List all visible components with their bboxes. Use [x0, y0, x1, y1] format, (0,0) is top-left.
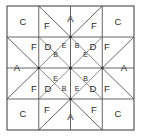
patch-label-center-bl-e: E	[53, 75, 58, 82]
left-junction-dot	[37, 67, 40, 70]
patch-label-left-upper-f: F	[31, 41, 37, 52]
patch-label-center-tl-e: E	[62, 42, 67, 49]
patch-label-right-center-a: A	[121, 62, 128, 73]
patch-label-corner-top-left: C	[20, 16, 27, 27]
patch-label-bottom-right-f: F	[91, 104, 97, 115]
patch-label-top-right-f: F	[91, 20, 97, 31]
patch-label-right-lower-d: D	[90, 83, 97, 94]
patch-label-left-lower-d: D	[45, 83, 52, 94]
patch-label-right-upper-f: F	[104, 41, 110, 52]
patch-label-top-left-f: F	[44, 20, 50, 31]
patch-label-bottom-left-f: F	[44, 104, 50, 115]
patch-label-center-br-e: E	[75, 85, 80, 92]
patch-label-corner-bottom-left: C	[20, 108, 27, 119]
top-junction-dot	[69, 36, 72, 39]
patch-label-corner-bottom-right: C	[115, 108, 122, 119]
patch-label-right-lower-f: F	[104, 83, 110, 94]
patch-label-corner-top-right: C	[115, 16, 122, 27]
quilt-block-svg: C C C C F A F F A F F D A F D D F A D F …	[0, 0, 142, 136]
patch-label-center-br-b: B	[83, 75, 88, 82]
quilt-block-figure: C C C C F A F F A F F D A F D D F A D F …	[0, 0, 142, 136]
patch-label-center-tl-b: B	[53, 51, 58, 58]
patch-label-right-upper-d: D	[90, 41, 97, 52]
center-junction-dot	[69, 66, 72, 69]
patch-label-top-center-a: A	[67, 13, 74, 24]
right-junction-dot	[101, 67, 104, 70]
patch-label-left-upper-d: D	[45, 41, 52, 52]
patch-label-center-bl-b: B	[62, 85, 67, 92]
patch-label-center-tr-b: B	[75, 42, 80, 49]
bottom-junction-dot	[69, 98, 72, 101]
patch-label-center-tr-e: E	[83, 51, 88, 58]
patch-label-left-lower-f: F	[31, 83, 37, 94]
patch-label-left-center-a: A	[14, 62, 21, 73]
patch-label-bottom-center-a: A	[67, 111, 74, 122]
